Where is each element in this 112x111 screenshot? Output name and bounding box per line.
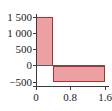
y-axis-label: 0 (0, 60, 32, 71)
x-axis-line (33, 86, 109, 87)
x-axis-tick (105, 86, 106, 90)
bar-chart-figure: 1 500 1 000 500 0 −500 0 0.8 1.6 (0, 0, 112, 111)
chart-title-clipped (0, 0, 112, 2)
y-axis-label: 1 500 (0, 12, 32, 23)
y-axis-label: −500 (0, 77, 32, 88)
x-axis-tick (70, 86, 71, 90)
y-axis-line (36, 14, 37, 86)
x-axis-label: 1.6 (90, 92, 112, 103)
x-axis-label: 0.8 (55, 92, 85, 103)
x-axis-tick (36, 86, 37, 90)
plot-area (36, 17, 105, 82)
bar (36, 17, 53, 66)
bar (53, 66, 105, 82)
x-axis-label: 0 (21, 92, 51, 103)
y-axis-label: 500 (0, 44, 32, 55)
y-axis-label: 1 000 (0, 28, 32, 39)
zero-reference-line (36, 65, 105, 66)
